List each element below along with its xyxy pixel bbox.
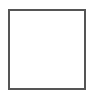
- canvas: [0, 0, 111, 93]
- square-outline: [8, 9, 86, 90]
